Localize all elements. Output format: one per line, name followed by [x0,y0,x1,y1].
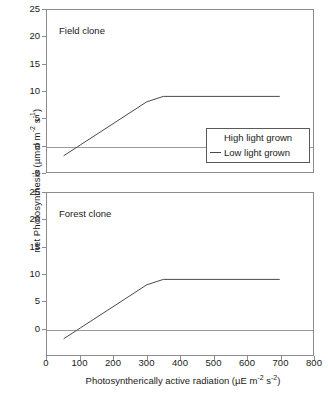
y-tick-mark-bottom-0 [42,329,46,330]
legend-line-icon-high-light-grown [210,137,221,138]
x-tick-mark-800 [314,356,315,360]
y-tick-mark-bottom-10 [42,274,46,275]
x-tick-mark-500 [214,356,215,360]
x-tick-mark-0 [46,356,47,360]
y-tick-mark-top--5 [42,173,46,174]
panel-caption-field-clone: Field clone [59,25,105,36]
y-tick-label-bottom-25: 25 [14,187,40,197]
y-tick-label-top-25: 25 [14,4,40,14]
y-tick-label-bottom-10: 10 [14,269,40,279]
x-axis-label-mid: s [264,375,271,386]
y-tick-mark-top-25 [42,9,46,10]
y-tick-label-bottom-20: 20 [14,214,40,224]
y-tick-mark-top-15 [42,64,46,65]
panel-forest-clone: Forest clone [46,192,314,356]
legend-item-low-light-grown: Low light grown [207,145,309,160]
x-axis-label: Photosyntherically active radiation (µE … [40,375,326,386]
plot-area-bottom: Forest clone [47,193,313,355]
legend: High light grown Low light grown [206,128,310,163]
x-tick-mark-400 [180,356,181,360]
x-axis-label-post: ) [277,375,280,386]
y-tick-label-top-5: 5 [14,113,40,123]
x-axis-label-pre: Photosyntherically active radiation (µE … [86,375,258,386]
x-tick-mark-600 [247,356,248,360]
y-tick-mark-top-5 [42,118,46,119]
y-tick-label-top-10: 10 [14,86,40,96]
y-tick-label-top-20: 20 [14,31,40,41]
y-tick-mark-top-20 [42,36,46,37]
y-tick-mark-bottom-15 [42,247,46,248]
y-tick-mark-bottom-20 [42,219,46,220]
x-tick-mark-300 [147,356,148,360]
x-tick-mark-700 [281,356,282,360]
y-tick-mark-top-0 [42,146,46,147]
y-tick-mark-bottom-25 [42,192,46,193]
y-tick-mark-top-10 [42,91,46,92]
y-tick-label-bottom-15: 15 [14,242,40,252]
x-tick-mark-200 [113,356,114,360]
x-tick-mark-100 [80,356,81,360]
legend-label-high-light-grown: High light grown [224,132,292,143]
y-tick-label-bottom-5: 5 [14,296,40,306]
y-tick-mark-bottom-5 [42,301,46,302]
y-axis-label-sup1: -2 [29,126,36,132]
y-tick-label-top--5: -5 [14,168,40,178]
y-tick-label-bottom-0: 0 [14,324,40,334]
legend-item-high-light-grown: High light grown [207,130,309,145]
legend-label-low-light-grown: Low light grown [224,147,290,158]
y-tick-label-top-0: 0 [14,141,40,151]
panel-caption-forest-clone: Forest clone [59,208,111,219]
y-tick-label-top-15: 15 [14,59,40,69]
figure: net Photosynthesis (µmol m-2 s-1) Field … [0,0,328,405]
legend-line-icon-low-light-grown [210,152,221,153]
